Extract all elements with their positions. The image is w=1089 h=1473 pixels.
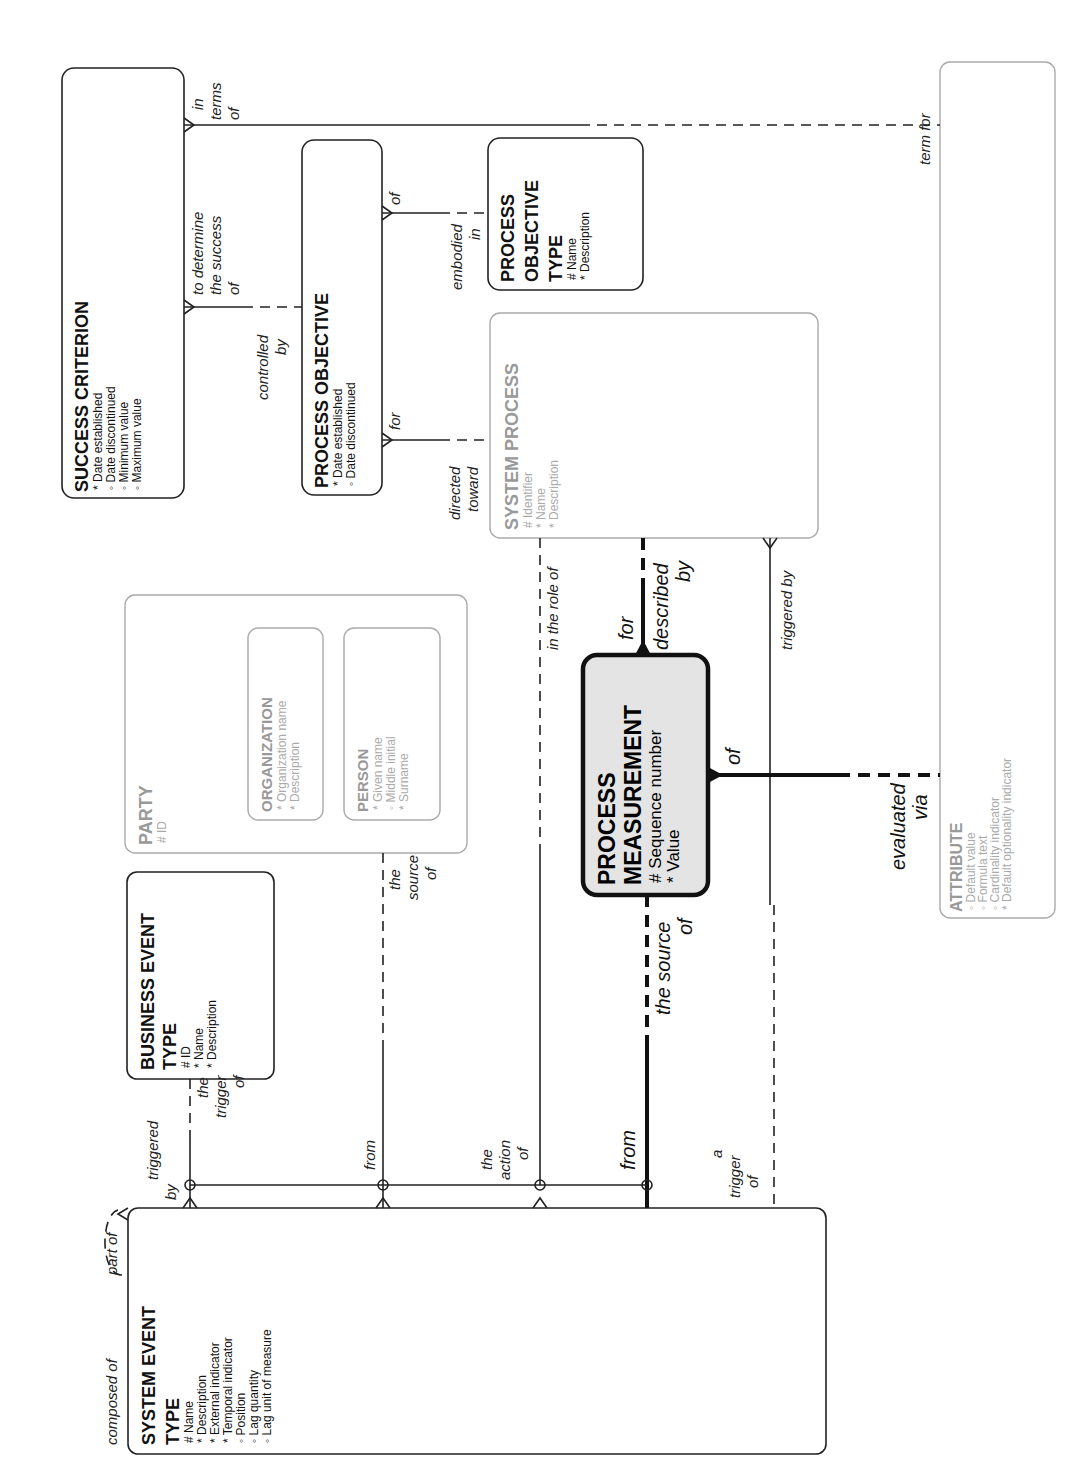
svg-text:by: by (272, 338, 289, 355)
attr: ◦ Middle initial (384, 736, 398, 810)
svg-text:trigger: trigger (212, 1074, 229, 1118)
pm-title-2: MEASUREMENT (620, 705, 646, 885)
attr: ◦ Date discontinued (344, 382, 358, 486)
svg-text:of: of (722, 746, 744, 765)
attr: ◦ Position (234, 1393, 248, 1443)
attr: ◦ Date discontinued (104, 386, 118, 490)
attr: # Identifier (521, 472, 535, 528)
svg-text:of: of (422, 866, 439, 880)
attr: * Default optionality indicator (1000, 758, 1014, 910)
svg-text:toward: toward (464, 466, 481, 512)
svg-text:triggered by: triggered by (778, 569, 795, 650)
svg-text:controlled: controlled (254, 334, 271, 400)
process-objective-title: PROCESS OBJECTIVE (312, 293, 332, 488)
party-title: PARTY (136, 785, 156, 845)
svg-text:the: the (386, 869, 403, 890)
attr: * Description (288, 742, 302, 810)
label-for-pm: for (615, 615, 637, 640)
svg-text:the source: the source (652, 922, 674, 1015)
pm-title-1: PROCESS (594, 773, 620, 885)
svg-text:by: by (162, 1183, 179, 1200)
label-a-trigger-of: a trigger of (708, 1150, 761, 1198)
attr: ◦ Minimum value (117, 401, 131, 490)
attr: # Name (182, 1401, 196, 1443)
pot-title-1: PROCESS (498, 194, 518, 282)
svg-text:term for: term for (916, 112, 933, 165)
svg-text:source: source (404, 855, 421, 900)
label-triggered-by-set: triggered by (144, 1120, 179, 1200)
attr: ◦ Maximum value (130, 398, 144, 490)
svg-text:evaluated: evaluated (887, 782, 909, 870)
attr: # ID (155, 821, 169, 843)
pot-title-2: OBJECTIVE (522, 180, 542, 282)
label-the-action-of: the action of (478, 1140, 531, 1180)
svg-text:a: a (708, 1150, 725, 1158)
attr: ◦ Lag unit of measure (260, 1329, 274, 1443)
attr: * Given name (371, 737, 385, 810)
attr: * Date established (331, 389, 345, 486)
attribute-title: ATTRIBUTE (948, 822, 965, 912)
svg-text:trigger: trigger (726, 1154, 743, 1198)
label-the-source-of-party: the source of (386, 855, 439, 900)
svg-text:the success: the success (207, 215, 224, 295)
svg-text:to determine: to determine (189, 212, 206, 295)
label-part-of: part of (103, 1231, 120, 1276)
label-for-po: for (386, 411, 403, 430)
svg-text:of: of (225, 106, 242, 120)
svg-text:triggered: triggered (144, 1120, 161, 1180)
svg-text:of: of (744, 1174, 761, 1188)
success-criterion-title: SUCCESS CRITERION (72, 301, 92, 492)
svg-text:from: from (617, 1130, 639, 1170)
svg-text:composed of: composed of (103, 1357, 120, 1445)
label-evaluated-via: evaluated via (887, 782, 931, 870)
attr: * Description (547, 460, 561, 528)
label-of-pot: of (386, 191, 403, 205)
svg-text:in: in (466, 228, 483, 240)
bet-title-1: BUSINESS EVENT (138, 913, 158, 1070)
attr: # Name (565, 238, 579, 280)
svg-text:of: of (225, 281, 242, 295)
attr: * Description (205, 1000, 219, 1068)
label-the-source-of-pm: the source of (652, 916, 696, 1015)
attr: * External indicator (208, 1342, 222, 1443)
attr: # ID (179, 1046, 193, 1068)
label-to-determine: to determine the success of (189, 212, 242, 295)
pm-anchor-icon (635, 640, 651, 655)
attr: * Description (578, 212, 592, 280)
bet-title-2: TYPE (160, 1023, 180, 1070)
label-in-the-role-of: in the role of (544, 566, 561, 650)
svg-text:by: by (672, 560, 694, 582)
label-described-by: described by (650, 560, 694, 650)
svg-text:directed: directed (446, 466, 463, 520)
attr: * Value (664, 829, 683, 883)
attribute-box[interactable] (940, 62, 1055, 918)
attr: * Temporal indicator (221, 1337, 235, 1443)
svg-text:in: in (189, 98, 206, 110)
svg-text:for: for (615, 615, 637, 640)
label-embodied-in: embodied in (448, 223, 483, 290)
label-triggered-by-sp: triggered by (778, 569, 795, 650)
label-from-pm: from (617, 1130, 639, 1170)
svg-text:the: the (194, 1077, 211, 1098)
attr: ◦ Lag quantity (247, 1370, 261, 1443)
label-of-pm: of (722, 746, 744, 765)
svg-text:embodied: embodied (448, 223, 465, 290)
pm-anchor-icon (708, 767, 723, 783)
attr: * Organization name (275, 700, 289, 810)
svg-text:of: of (514, 1146, 531, 1160)
attr: * Name (192, 1028, 206, 1068)
label-composed-of: composed of (103, 1357, 120, 1445)
svg-text:terms: terms (207, 82, 224, 120)
set-title-1: SYSTEM EVENT (139, 1306, 159, 1445)
attr: # Sequence number (646, 730, 665, 883)
svg-text:of: of (386, 191, 403, 205)
system-process-title: SYSTEM PROCESS (502, 363, 522, 530)
svg-text:the: the (478, 1149, 495, 1170)
svg-text:via: via (909, 794, 931, 820)
svg-text:from: from (361, 1140, 378, 1170)
pot-title-3: TYPE (546, 235, 566, 282)
svg-text:action: action (496, 1140, 513, 1180)
crowsfoot-icon (533, 1198, 547, 1208)
label-the-trigger-of: the trigger of (194, 1074, 247, 1118)
label-directed-toward: directed toward (446, 466, 481, 520)
